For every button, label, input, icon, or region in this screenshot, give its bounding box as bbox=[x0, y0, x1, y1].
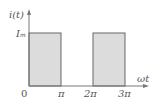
tick-pi: π bbox=[58, 89, 65, 99]
amplitude-sub: m bbox=[20, 31, 26, 38]
x-axis-arrow-icon bbox=[143, 84, 149, 88]
y-axis-arrow-icon bbox=[27, 9, 31, 15]
tick-0: 0 bbox=[21, 89, 27, 99]
amplitude-label: Im bbox=[16, 29, 26, 40]
x-axis-label: ωt bbox=[137, 74, 149, 84]
pulse-1 bbox=[29, 33, 61, 86]
pulse-2 bbox=[93, 33, 125, 86]
y-axis-label: i(t) bbox=[9, 10, 24, 20]
waveform-chart: i(t) Im ωt 0 π 2π 3π bbox=[0, 0, 156, 106]
tick-3pi: 3π bbox=[118, 89, 131, 99]
tick-2pi: 2π bbox=[84, 89, 97, 99]
